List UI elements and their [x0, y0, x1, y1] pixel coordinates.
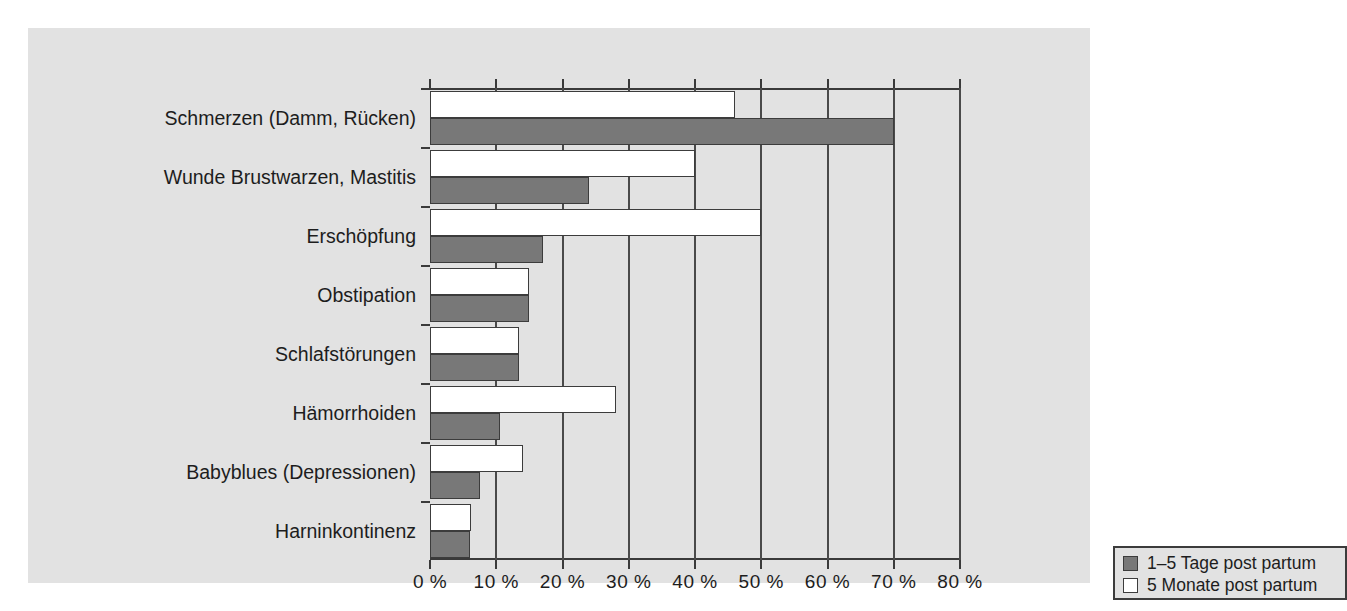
x-tick-label: 0 % — [413, 571, 447, 593]
x-tick-label: 50 % — [739, 571, 784, 593]
axis-tick — [893, 79, 895, 88]
plot-area: 0 %10 %20 %30 %40 %50 %60 %70 %80 % Schm… — [430, 88, 960, 560]
category-label: Wunde Brustwarzen, Mastitis — [164, 165, 416, 188]
category-tick — [421, 501, 430, 503]
x-tick-label: 70 % — [871, 571, 916, 593]
legend-item: 1–5 Tage post partum — [1123, 552, 1337, 574]
bar-1-5-tage — [430, 118, 894, 145]
category-tick — [421, 88, 430, 90]
axis-tick — [893, 560, 895, 569]
legend: 1–5 Tage post partum 5 Monate post partu… — [1113, 546, 1347, 600]
axis-tick — [628, 560, 630, 569]
x-tick-label: 40 % — [672, 571, 717, 593]
axis-tick — [760, 79, 762, 88]
category-label: Hämorrhoiden — [292, 401, 416, 424]
category-label: Schlafstörungen — [275, 342, 416, 365]
bar-1-5-tage — [430, 354, 519, 381]
category-label: Harninkontinenz — [275, 519, 416, 542]
bar-row: Hämorrhoiden — [430, 383, 960, 442]
x-tick-label: 60 % — [805, 571, 850, 593]
axis-tick — [429, 560, 431, 569]
bar-row: Schlafstörungen — [430, 324, 960, 383]
axis-tick — [495, 560, 497, 569]
legend-item: 5 Monate post partum — [1123, 574, 1337, 596]
bar-5-monate — [430, 386, 616, 413]
bar-1-5-tage — [430, 472, 480, 499]
bar-5-monate — [430, 268, 529, 295]
category-tick — [421, 265, 430, 267]
category-label: Schmerzen (Damm, Rücken) — [165, 106, 416, 129]
category-tick — [421, 206, 430, 208]
bar-row: Erschöpfung — [430, 206, 960, 265]
bar-5-monate — [430, 445, 523, 472]
axis-tick — [562, 560, 564, 569]
bar-row: Obstipation — [430, 265, 960, 324]
chart-panel: 0 %10 %20 %30 %40 %50 %60 %70 %80 % Schm… — [28, 28, 1090, 583]
axis-tick — [827, 79, 829, 88]
category-tick — [421, 147, 430, 149]
x-tick-label: 10 % — [474, 571, 519, 593]
axis-tick — [959, 560, 961, 569]
legend-label: 1–5 Tage post partum — [1147, 553, 1316, 574]
bar-5-monate — [430, 150, 695, 177]
bar-row: Babyblues (Depressionen) — [430, 442, 960, 501]
x-tick-label: 20 % — [540, 571, 585, 593]
axis-tick — [495, 79, 497, 88]
axis-tick — [628, 79, 630, 88]
bar-5-monate — [430, 209, 761, 236]
category-label: Obstipation — [317, 283, 416, 306]
bar-row: Harninkontinenz — [430, 501, 960, 560]
category-label: Erschöpfung — [307, 224, 417, 247]
axis-tick — [562, 79, 564, 88]
category-label: Babyblues (Depressionen) — [186, 460, 416, 483]
bar-1-5-tage — [430, 531, 470, 558]
x-tick-label: 80 % — [937, 571, 982, 593]
legend-swatch-dark — [1123, 556, 1138, 571]
bar-1-5-tage — [430, 413, 500, 440]
legend-swatch-light — [1123, 578, 1138, 593]
legend-label: 5 Monate post partum — [1147, 575, 1317, 596]
axis-tick — [694, 560, 696, 569]
bar-1-5-tage — [430, 295, 529, 322]
axis-tick — [694, 79, 696, 88]
axis-tick — [760, 560, 762, 569]
axis-tick — [959, 79, 961, 88]
bar-1-5-tage — [430, 177, 589, 204]
axis-tick — [429, 79, 431, 88]
category-tick — [421, 383, 430, 385]
bar-5-monate — [430, 91, 735, 118]
bar-1-5-tage — [430, 236, 543, 263]
bar-5-monate — [430, 327, 519, 354]
category-tick — [421, 442, 430, 444]
bar-5-monate — [430, 504, 471, 531]
category-tick — [421, 324, 430, 326]
bar-row: Wunde Brustwarzen, Mastitis — [430, 147, 960, 206]
bar-row: Schmerzen (Damm, Rücken) — [430, 88, 960, 147]
x-tick-label: 30 % — [606, 571, 651, 593]
axis-tick — [827, 560, 829, 569]
